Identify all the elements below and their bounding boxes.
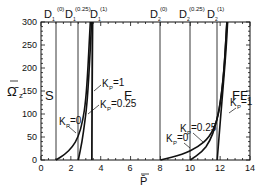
svg-text:Ω̄: Ω̄: [7, 84, 19, 99]
label-d1-0: D 1 (0): [44, 6, 64, 22]
region-s-label: S: [45, 88, 54, 103]
label-d1-1: D 1 (1): [90, 6, 107, 22]
x-tick-6: 6: [127, 163, 132, 173]
kp025-left-label: KP=0.25: [100, 98, 137, 112]
svg-text:1: 1: [73, 16, 76, 22]
svg-text:2: 2: [215, 16, 218, 22]
svg-text:D: D: [179, 8, 187, 20]
curve-kp-1-s-f: [92, 22, 93, 160]
svg-text:2: 2: [158, 16, 161, 22]
svg-text:2: 2: [187, 16, 190, 22]
curve-kp-1-f-ff: [217, 22, 227, 160]
top-labels: D 1 (0) D 1 (0.25) D 1 (1) D 2 (0) D 2 (…: [44, 6, 224, 22]
curves: [56, 22, 228, 160]
label-d2-025: D 2 (0.25): [179, 6, 205, 22]
x-tick-10: 10: [185, 163, 195, 173]
svg-text:(0): (0): [57, 6, 64, 12]
svg-text:D: D: [150, 8, 158, 20]
svg-text:=0: =0: [70, 115, 82, 126]
curve-kp-0-25-f-ff: [190, 22, 227, 160]
label-d2-0: D 2 (0): [150, 6, 167, 22]
svg-text:D: D: [65, 8, 73, 20]
y-tick-labels: 0 50 100 150 200 250 300: [22, 17, 37, 165]
svg-text:=1: =1: [113, 77, 125, 88]
x-tick-2: 2: [68, 163, 73, 173]
curve-kp-0-s-f: [56, 22, 90, 160]
x-tick-labels: 0 2 4 6 8 10 12 14: [38, 163, 255, 173]
svg-text:1: 1: [98, 16, 101, 22]
y-tick-100: 100: [22, 109, 37, 119]
svg-text:=0: =0: [177, 132, 189, 143]
svg-text:(0.25): (0.25): [189, 6, 205, 12]
y-tick-300: 300: [22, 17, 37, 27]
svg-text:1: 1: [52, 16, 55, 22]
svg-text:(0): (0): [160, 6, 167, 12]
svg-text:D: D: [90, 8, 98, 20]
svg-text:(1): (1): [217, 6, 224, 12]
svg-text:D: D: [207, 8, 215, 20]
svg-text:K: K: [59, 116, 66, 127]
phase-diagram-chart: 0 50 100 150 200 250 300 0 2 4 6 8 10 12…: [0, 0, 262, 186]
label-d1-025: D 1 (0.25): [65, 6, 91, 22]
kp1-right-label: KP=1: [230, 96, 253, 110]
svg-text:K: K: [166, 133, 173, 144]
x-tick-12: 12: [215, 163, 225, 173]
svg-text:K: K: [100, 99, 107, 110]
x-tick-4: 4: [98, 163, 103, 173]
svg-text:=1: =1: [241, 96, 253, 107]
svg-text:K: K: [102, 78, 109, 89]
y-tick-150: 150: [22, 86, 37, 96]
svg-text:=0.25: =0.25: [191, 122, 217, 133]
y-tick-0: 0: [32, 155, 37, 165]
svg-text:D: D: [44, 8, 52, 20]
svg-text:(0.25): (0.25): [75, 6, 91, 12]
svg-text:=0.25: =0.25: [111, 98, 137, 109]
y-tick-250: 250: [22, 40, 37, 50]
label-d2-1: D 2 (1): [207, 6, 224, 22]
critical-lines: [56, 22, 217, 160]
svg-text:P̄: P̄: [140, 175, 147, 186]
svg-text:(1): (1): [100, 6, 107, 12]
x-tick-14: 14: [245, 163, 255, 173]
svg-text:z: z: [19, 91, 23, 100]
svg-text:K: K: [230, 97, 237, 108]
y-tick-50: 50: [27, 132, 37, 142]
y-tick-200: 200: [22, 63, 37, 73]
kp1-left-label: KP=1: [102, 77, 125, 91]
x-tick-8: 8: [157, 163, 162, 173]
x-tick-0: 0: [38, 163, 43, 173]
y-axis-title: Ω̄ z: [7, 81, 23, 100]
x-axis-title: P̄: [140, 174, 149, 186]
